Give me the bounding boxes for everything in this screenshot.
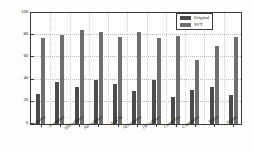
bar-svt [176, 36, 180, 124]
bar-group [50, 13, 69, 124]
x-tick-mark [176, 124, 177, 127]
x-tick-mark [118, 124, 119, 127]
bar-group [108, 13, 127, 124]
bar-group [31, 13, 50, 124]
y-tick-label: 40 [23, 75, 31, 80]
y-tick-label: 100 [21, 8, 31, 13]
bar-svt [60, 35, 64, 124]
bar-group [224, 13, 243, 124]
figure: BLEU@n-4 (%) 020406080100 softmaxA-softm… [0, 0, 254, 152]
bar-svt [80, 30, 84, 124]
x-tick-mark [214, 124, 215, 127]
legend-label-original: Original [194, 16, 209, 21]
y-tick-label: 80 [23, 30, 31, 35]
legend-item-original: Original [180, 16, 209, 21]
legend-swatch-original [180, 16, 191, 20]
x-tick-mark [41, 124, 42, 127]
bar-svt [234, 37, 238, 124]
bar-svt [137, 32, 141, 124]
bar-svt [99, 32, 103, 124]
legend-label-svt: SVT [194, 23, 203, 28]
y-tick-label: 60 [23, 52, 31, 57]
x-tick-mark [233, 124, 234, 127]
legend-item-svt: SVT [180, 23, 209, 28]
legend-swatch-svt [180, 23, 191, 27]
bar-group [89, 13, 108, 124]
bar-group [127, 13, 146, 124]
bar-svt [118, 37, 122, 124]
x-tick-mark [60, 124, 61, 127]
bar-svt [215, 46, 219, 124]
x-tick-mark [79, 124, 80, 127]
x-tick-mark [156, 124, 157, 127]
x-tick-mark [98, 124, 99, 127]
bar-svt [157, 38, 161, 124]
bar-group [147, 13, 166, 124]
y-tick-label: 20 [23, 97, 31, 102]
bar-group [70, 13, 89, 124]
x-tick-mark [195, 124, 196, 127]
bar-svt [41, 38, 45, 124]
chart-legend: Original SVT [176, 13, 213, 30]
x-tick-mark [137, 124, 138, 127]
